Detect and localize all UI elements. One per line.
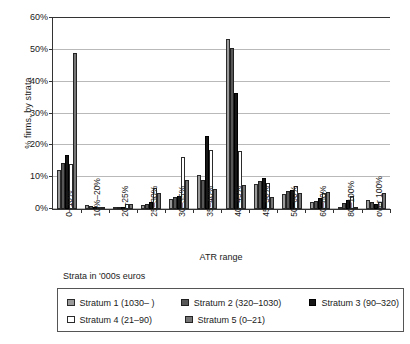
legend-item-s2[interactable]: Stratum 2 (320–1030) <box>181 298 309 308</box>
y-axis-tick-label: 10% <box>30 171 48 181</box>
legend-swatch-icon <box>67 299 75 307</box>
x-axis-title: ATR range <box>52 252 390 262</box>
legend-item-label: Stratum 2 (320–1030) <box>194 298 282 308</box>
bar-groups <box>53 18 390 209</box>
bar-group <box>53 18 81 209</box>
y-axis-tick-label: 60% <box>30 12 48 22</box>
bar-group <box>165 18 193 209</box>
y-axis-tick-label: 0% <box>35 203 48 213</box>
legend-item-s3[interactable]: Stratum 3 (90–320) <box>309 298 399 308</box>
bar-group <box>109 18 137 209</box>
bar-chart: % firms, by strata 0%10%20%30%40%50%60% … <box>0 0 410 344</box>
legend-swatch-icon <box>309 299 317 307</box>
bar <box>73 53 77 209</box>
legend-item-label: Stratum 3 (90–320) <box>321 298 399 308</box>
y-axis-tick-label: 50% <box>30 44 48 54</box>
legend-row: Stratum 4 (21–90)Stratum 5 (0–21) <box>67 311 399 328</box>
legend-item-s1[interactable]: Stratum 1 (1030– ) <box>67 298 181 308</box>
legend-item-label: Stratum 4 (21–90) <box>80 315 153 325</box>
y-axis-tick-label: 20% <box>30 139 48 149</box>
plot-area: 0%10%20%30%40%50%60% <box>52 18 390 210</box>
bar-group <box>306 18 334 209</box>
bar-group <box>278 18 306 209</box>
bar-group <box>193 18 221 209</box>
y-axis-tick-label: 40% <box>30 76 48 86</box>
legend-row: Stratum 1 (1030– )Stratum 2 (320–1030)St… <box>67 294 399 311</box>
legend-swatch-icon <box>181 299 189 307</box>
legend-item-s5[interactable]: Stratum 5 (0–21) <box>185 315 317 325</box>
bar-group <box>137 18 165 209</box>
legend-item-label: Stratum 1 (1030– ) <box>80 298 155 308</box>
legend-swatch-icon <box>67 316 75 324</box>
bar-group <box>250 18 278 209</box>
legend-item-s4[interactable]: Stratum 4 (21–90) <box>67 315 185 325</box>
bar-group <box>221 18 249 209</box>
legend-item-label: Stratum 5 (0–21) <box>198 315 266 325</box>
y-axis-tick-label: 30% <box>30 108 48 118</box>
legend-swatch-icon <box>185 316 193 324</box>
legend: Stratum 1 (1030– )Stratum 2 (320–1030)St… <box>57 288 404 332</box>
strata-caption: Strata in '000s euros <box>63 271 145 281</box>
